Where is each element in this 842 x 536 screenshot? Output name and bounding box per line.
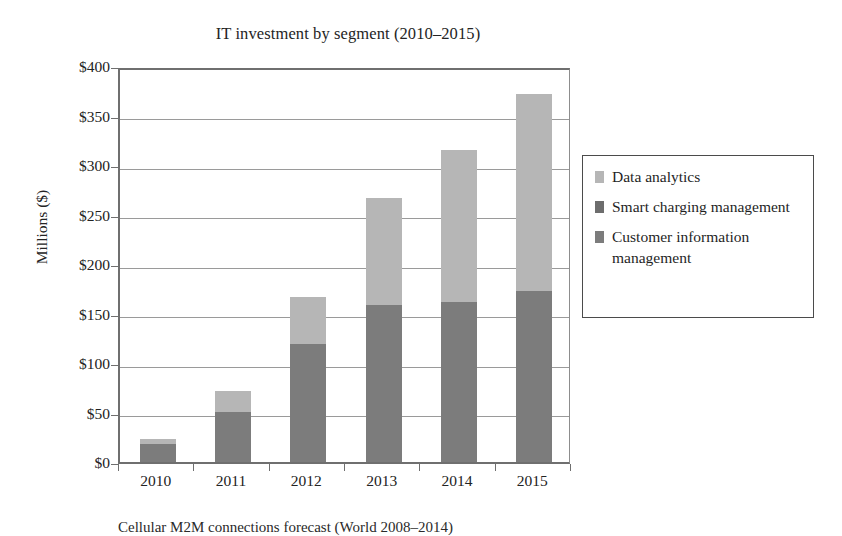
bar-segment[interactable] <box>215 391 251 412</box>
x-axis-tick-mark <box>495 464 496 471</box>
plot-area <box>118 68 570 464</box>
x-axis-tick-label: 2013 <box>342 472 422 490</box>
bar-segment[interactable] <box>441 302 477 462</box>
chart-title: IT investment by segment (2010–2015) <box>118 24 578 44</box>
bar-segment[interactable] <box>366 305 402 462</box>
figure-caption: Cellular M2M connections forecast (World… <box>118 519 718 536</box>
gridline <box>120 119 569 120</box>
legend-label: Smart charging management <box>612 196 790 217</box>
legend-item[interactable]: Smart charging management <box>595 196 805 217</box>
gridline <box>120 317 569 318</box>
legend-item[interactable]: Data analytics <box>595 166 805 187</box>
chart-legend: Data analytics Smart charging management… <box>582 155 814 318</box>
y-axis-tick-label: $200 <box>26 256 110 274</box>
gridline <box>120 416 569 417</box>
x-axis-tick-mark <box>269 464 270 471</box>
bar-segment[interactable] <box>366 198 402 305</box>
legend-label: Data analytics <box>612 166 700 187</box>
legend-swatch-customer-information <box>595 231 604 243</box>
x-axis-tick-label: 2010 <box>116 472 196 490</box>
gridline <box>120 367 569 368</box>
x-axis-tick-label: 2015 <box>492 472 572 490</box>
x-axis-tick-label: 2014 <box>417 472 497 490</box>
bar-segment[interactable] <box>215 412 251 462</box>
legend-swatch-data-analytics <box>595 171 604 183</box>
bar-segment[interactable] <box>290 344 326 462</box>
bar-segment[interactable] <box>516 94 552 291</box>
legend-label: Customer information management <box>612 226 805 268</box>
bar-segment[interactable] <box>290 297 326 345</box>
x-axis-tick-mark <box>118 464 119 471</box>
y-axis-tick-label: $400 <box>26 58 110 76</box>
legend-swatch-smart-charging <box>595 201 604 213</box>
legend-item[interactable]: Customer information management <box>595 226 805 268</box>
y-axis-tick-label: $100 <box>26 355 110 373</box>
figure-container: IT investment by segment (2010–2015) Mil… <box>0 0 842 536</box>
x-axis-tick-mark <box>419 464 420 471</box>
gridline <box>120 169 569 170</box>
x-axis-tick-label: 2012 <box>266 472 346 490</box>
bar-segment[interactable] <box>140 439 176 444</box>
x-axis-tick-label: 2011 <box>191 472 271 490</box>
bar-segment[interactable] <box>140 444 176 462</box>
y-axis-tick-label: $150 <box>26 306 110 324</box>
bar-segment[interactable] <box>441 150 477 301</box>
x-axis-tick-mark <box>344 464 345 471</box>
bar-segment[interactable] <box>516 291 552 462</box>
y-axis-tick-label: $350 <box>26 108 110 126</box>
y-axis-tick-label: $0 <box>26 454 110 472</box>
y-axis-tick-label: $50 <box>26 405 110 423</box>
gridline <box>120 218 569 219</box>
x-axis-tick-mark <box>570 464 571 471</box>
gridline <box>120 268 569 269</box>
y-axis-tick-label: $250 <box>26 207 110 225</box>
x-axis-tick-mark <box>193 464 194 471</box>
y-axis-tick-label: $300 <box>26 157 110 175</box>
